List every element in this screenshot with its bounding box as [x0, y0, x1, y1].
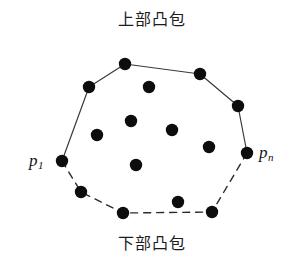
hull-vertex-u4: [232, 100, 244, 112]
hull-vertex-l1: [75, 186, 87, 198]
lower-hull-edges: [62, 153, 247, 213]
hull-vertex-u3: [194, 68, 206, 80]
hull-vertex-pn: [241, 147, 253, 159]
lower-hull-polyline-group: [62, 153, 247, 213]
interior-point-i7: [172, 196, 184, 208]
point-label-pn: pn: [259, 144, 274, 163]
interior-point-i1: [143, 81, 155, 93]
point-label-pn-base: p: [259, 143, 268, 162]
interior-point-i2: [125, 115, 137, 127]
hull-vertex-p1: [56, 155, 68, 167]
point-set-group: [56, 58, 253, 219]
lower-hull-caption: 下部凸包: [0, 236, 303, 252]
interior-point-i3: [91, 129, 103, 141]
convex-hull-canvas: [0, 0, 303, 273]
hull-vertex-u1: [83, 81, 95, 93]
convex-hull-figure: 上部凸包 p1 pn 下部凸包: [0, 0, 303, 273]
hull-vertex-l2: [117, 207, 129, 219]
interior-point-i6: [130, 159, 142, 171]
point-label-p1-base: p: [29, 151, 38, 170]
upper-hull-edges: [62, 64, 247, 161]
interior-point-i4: [166, 124, 178, 136]
point-label-p1: p1: [29, 152, 44, 171]
interior-point-i5: [203, 141, 215, 153]
point-label-p1-subscript: 1: [38, 159, 44, 171]
hull-vertex-u2: [119, 58, 131, 70]
hull-vertex-l3: [206, 206, 218, 218]
upper-hull-polyline-group: [62, 64, 247, 161]
point-label-pn-subscript: n: [268, 151, 274, 163]
